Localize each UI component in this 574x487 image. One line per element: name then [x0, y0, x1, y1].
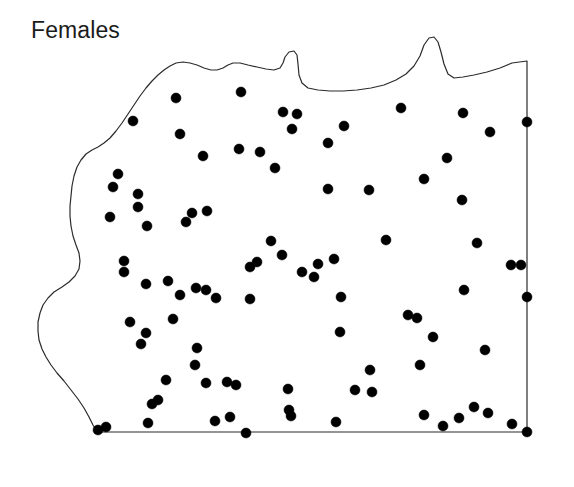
data-point — [278, 107, 288, 117]
data-point — [141, 279, 151, 289]
data-point — [133, 202, 143, 212]
data-point — [266, 236, 276, 246]
data-point — [506, 260, 516, 270]
data-point — [412, 313, 422, 323]
data-point — [472, 238, 482, 248]
data-point — [283, 384, 293, 394]
data-point — [175, 129, 185, 139]
data-point — [480, 345, 490, 355]
data-point — [105, 212, 115, 222]
data-point — [113, 169, 123, 179]
data-point — [245, 294, 255, 304]
data-point — [336, 292, 346, 302]
data-point — [128, 116, 138, 126]
data-point — [428, 332, 438, 342]
data-point — [350, 385, 360, 395]
data-point — [331, 417, 341, 427]
data-point — [287, 124, 297, 134]
data-point — [153, 395, 163, 405]
data-point — [522, 427, 532, 437]
data-point — [163, 276, 173, 286]
data-point — [201, 285, 211, 295]
data-point — [277, 250, 287, 260]
data-point — [469, 402, 479, 412]
data-point — [181, 217, 191, 227]
data-point — [119, 267, 129, 277]
data-point — [171, 93, 181, 103]
data-point — [236, 87, 246, 97]
data-point — [198, 151, 208, 161]
data-point — [192, 343, 202, 353]
data-point — [522, 292, 532, 302]
data-point — [133, 189, 143, 199]
figure-root: Females — [0, 0, 574, 487]
data-point — [101, 422, 111, 432]
data-point — [335, 327, 345, 337]
scatter-plot-canvas — [0, 0, 574, 487]
data-point — [516, 260, 526, 270]
data-point — [323, 138, 333, 148]
data-point — [191, 283, 201, 293]
data-point — [108, 182, 118, 192]
data-point — [297, 267, 307, 277]
data-point — [143, 418, 153, 428]
data-point — [231, 380, 241, 390]
data-point — [381, 235, 391, 245]
data-point — [522, 117, 532, 127]
data-point — [210, 416, 220, 426]
data-point — [415, 360, 425, 370]
data-point — [364, 185, 374, 195]
data-point — [309, 272, 319, 282]
data-point — [234, 144, 244, 154]
data-point — [175, 290, 185, 300]
data-point — [141, 328, 151, 338]
data-point — [142, 221, 152, 231]
data-point — [459, 285, 469, 295]
data-point — [485, 127, 495, 137]
data-point — [222, 377, 232, 387]
data-point — [438, 421, 448, 431]
data-point — [483, 408, 493, 418]
data-point — [161, 375, 171, 385]
data-point — [419, 410, 429, 420]
data-point — [201, 378, 211, 388]
data-point — [292, 109, 302, 119]
data-point — [252, 257, 262, 267]
data-point — [329, 254, 339, 264]
data-point — [270, 163, 280, 173]
data-point — [190, 360, 200, 370]
data-point — [313, 259, 323, 269]
data-point — [211, 293, 221, 303]
data-point — [339, 121, 349, 131]
page-title: Females — [31, 18, 120, 43]
data-point — [367, 387, 377, 397]
data-point — [419, 174, 429, 184]
data-point — [136, 339, 146, 349]
data-point — [323, 184, 333, 194]
data-point — [286, 411, 296, 421]
data-point — [454, 413, 464, 423]
data-point — [187, 208, 197, 218]
data-point — [458, 108, 468, 118]
data-point — [403, 310, 413, 320]
data-point — [396, 103, 406, 113]
data-point — [442, 153, 452, 163]
data-point — [365, 365, 375, 375]
data-point — [202, 206, 212, 216]
data-point — [119, 256, 129, 266]
data-point — [255, 147, 265, 157]
data-point — [125, 317, 135, 327]
data-point — [507, 419, 517, 429]
data-point — [457, 195, 467, 205]
data-point — [168, 314, 178, 324]
data-point — [225, 412, 235, 422]
data-point — [241, 428, 251, 438]
